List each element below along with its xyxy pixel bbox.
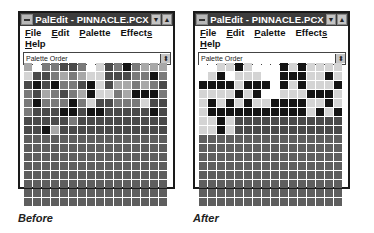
palette-swatch[interactable]: [244, 144, 252, 152]
palette-swatch[interactable]: [199, 162, 207, 170]
palette-swatch[interactable]: [114, 189, 122, 197]
palette-swatch[interactable]: [78, 144, 86, 152]
palette-swatch[interactable]: [235, 153, 243, 161]
palette-swatch[interactable]: [334, 63, 342, 71]
palette-swatch[interactable]: [150, 135, 158, 143]
palette-swatch[interactable]: [307, 81, 315, 89]
menu-file[interactable]: File: [200, 27, 216, 38]
palette-swatch[interactable]: [334, 72, 342, 80]
palette-swatch[interactable]: [69, 162, 77, 170]
palette-swatch[interactable]: [280, 153, 288, 161]
palette-swatch[interactable]: [244, 117, 252, 125]
palette-swatch[interactable]: [51, 90, 59, 98]
palette-swatch[interactable]: [208, 99, 216, 107]
palette-swatch[interactable]: [280, 117, 288, 125]
palette-swatch[interactable]: [334, 180, 342, 188]
palette-swatch[interactable]: [289, 180, 297, 188]
palette-swatch[interactable]: [123, 144, 131, 152]
palette-swatch[interactable]: [280, 144, 288, 152]
palette-swatch[interactable]: [316, 63, 324, 71]
palette-swatch[interactable]: [132, 63, 140, 71]
palette-swatch[interactable]: [280, 126, 288, 134]
palette-swatch[interactable]: [271, 126, 279, 134]
palette-swatch[interactable]: [51, 171, 59, 179]
palette-swatch[interactable]: [114, 153, 122, 161]
palette-swatch[interactable]: [114, 63, 122, 71]
palette-swatch[interactable]: [208, 171, 216, 179]
palette-swatch[interactable]: [289, 117, 297, 125]
palette-swatch[interactable]: [87, 180, 95, 188]
palette-swatch[interactable]: [325, 135, 333, 143]
palette-swatch[interactable]: [325, 153, 333, 161]
palette-swatch[interactable]: [217, 81, 225, 89]
palette-swatch[interactable]: [159, 135, 167, 143]
palette-swatch[interactable]: [244, 63, 252, 71]
palette-swatch[interactable]: [235, 189, 243, 197]
palette-swatch[interactable]: [208, 126, 216, 134]
palette-swatch[interactable]: [33, 171, 41, 179]
palette-swatch[interactable]: [271, 108, 279, 116]
palette-swatch[interactable]: [150, 90, 158, 98]
palette-swatch[interactable]: [316, 144, 324, 152]
palette-swatch[interactable]: [96, 135, 104, 143]
palette-swatch[interactable]: [141, 153, 149, 161]
palette-swatch[interactable]: [271, 171, 279, 179]
palette-swatch[interactable]: [262, 171, 270, 179]
palette-swatch[interactable]: [199, 63, 207, 71]
palette-swatch[interactable]: [24, 117, 32, 125]
palette-swatch[interactable]: [96, 108, 104, 116]
palette-swatch[interactable]: [51, 180, 59, 188]
palette-swatch[interactable]: [87, 99, 95, 107]
palette-swatch[interactable]: [271, 162, 279, 170]
palette-swatch[interactable]: [289, 171, 297, 179]
palette-swatch[interactable]: [87, 126, 95, 134]
palette-swatch[interactable]: [24, 135, 32, 143]
palette-swatch[interactable]: [69, 81, 77, 89]
palette-swatch[interactable]: [208, 153, 216, 161]
palette-swatch[interactable]: [280, 90, 288, 98]
palette-swatch[interactable]: [33, 90, 41, 98]
palette-swatch[interactable]: [217, 171, 225, 179]
palette-swatch[interactable]: [159, 198, 167, 206]
palette-swatch[interactable]: [78, 63, 86, 71]
palette-swatch[interactable]: [96, 117, 104, 125]
system-menu-icon[interactable]: [21, 14, 33, 25]
palette-swatch[interactable]: [226, 63, 234, 71]
palette-swatch[interactable]: [289, 144, 297, 152]
palette-swatch[interactable]: [316, 81, 324, 89]
palette-swatch[interactable]: [114, 135, 122, 143]
palette-swatch[interactable]: [150, 153, 158, 161]
palette-swatch[interactable]: [132, 72, 140, 80]
palette-swatch[interactable]: [325, 180, 333, 188]
palette-swatch[interactable]: [325, 81, 333, 89]
palette-swatch[interactable]: [60, 99, 68, 107]
palette-swatch[interactable]: [132, 126, 140, 134]
palette-swatch[interactable]: [69, 135, 77, 143]
palette-swatch[interactable]: [33, 144, 41, 152]
palette-swatch[interactable]: [316, 135, 324, 143]
palette-swatch[interactable]: [235, 72, 243, 80]
palette-swatch[interactable]: [60, 108, 68, 116]
palette-swatch[interactable]: [271, 189, 279, 197]
palette-swatch[interactable]: [235, 162, 243, 170]
palette-swatch[interactable]: [334, 189, 342, 197]
palette-swatch[interactable]: [132, 162, 140, 170]
palette-swatch[interactable]: [42, 180, 50, 188]
palette-swatch[interactable]: [114, 198, 122, 206]
palette-swatch[interactable]: [78, 171, 86, 179]
palette-swatch[interactable]: [316, 180, 324, 188]
palette-swatch[interactable]: [271, 135, 279, 143]
palette-swatch[interactable]: [87, 198, 95, 206]
palette-swatch[interactable]: [244, 99, 252, 107]
palette-swatch[interactable]: [298, 162, 306, 170]
palette-swatch[interactable]: [289, 81, 297, 89]
palette-swatch[interactable]: [114, 72, 122, 80]
palette-swatch[interactable]: [51, 135, 59, 143]
palette-swatch[interactable]: [105, 63, 113, 71]
palette-swatch[interactable]: [105, 72, 113, 80]
palette-swatch[interactable]: [253, 153, 261, 161]
palette-swatch[interactable]: [271, 72, 279, 80]
palette-swatch[interactable]: [60, 117, 68, 125]
palette-swatch[interactable]: [60, 189, 68, 197]
palette-swatch[interactable]: [334, 90, 342, 98]
